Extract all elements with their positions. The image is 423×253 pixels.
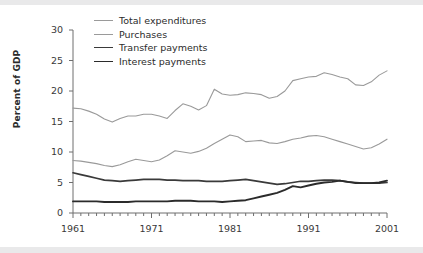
legend-item[interactable]: Total expenditures [94, 14, 208, 28]
legend-item[interactable]: Interest payments [94, 55, 208, 69]
x-tick-label: 1971 [132, 223, 172, 234]
legend-item-label: Purchases [119, 29, 167, 40]
series-line-total-expenditures [73, 71, 387, 122]
x-tick-label: 1961 [53, 223, 93, 234]
legend-item-label: Transfer payments [119, 42, 208, 53]
legend-item[interactable]: Transfer payments [94, 41, 208, 55]
y-tick-label: 5 [37, 177, 63, 188]
legend-line-icon [94, 61, 113, 62]
legend-line-icon [94, 34, 113, 35]
x-tick-label: 1991 [289, 223, 329, 234]
legend-line-icon [94, 20, 113, 21]
legend-item[interactable]: Purchases [94, 28, 208, 42]
x-tick-label: 2001 [367, 223, 407, 234]
series-line-transfer-payments [73, 173, 387, 185]
y-tick-label: 10 [37, 146, 63, 157]
y-tick-label: 25 [37, 55, 63, 66]
series-line-purchases [73, 135, 387, 167]
legend-line-icon [94, 47, 113, 48]
chart-legend: Total expendituresPurchasesTransfer paym… [94, 14, 208, 68]
chart-figure: Percent of GDP 051015202530 196119711981… [0, 0, 423, 253]
y-tick-label: 0 [37, 207, 63, 218]
y-axis-title: Percent of GDP [12, 34, 22, 144]
legend-item-label: Interest payments [119, 56, 206, 67]
chart-plot-area [0, 0, 423, 253]
x-tick-label: 1981 [210, 223, 250, 234]
y-tick-label: 20 [37, 85, 63, 96]
series-line-interest-payments [73, 181, 387, 202]
legend-item-label: Total expenditures [119, 15, 206, 26]
y-tick-label: 30 [37, 24, 63, 35]
y-tick-label: 15 [37, 116, 63, 127]
